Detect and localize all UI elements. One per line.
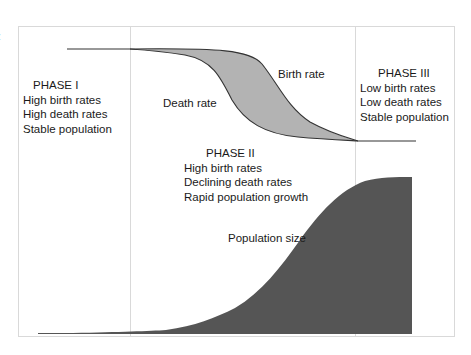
rate-gap-area — [130, 49, 358, 141]
phase-2-line-2: Declining death rates — [184, 175, 308, 190]
phase-2-line-1: High birth rates — [184, 161, 308, 176]
phase-2-title: PHASE II — [184, 146, 308, 161]
population-size-label: Population size — [228, 231, 306, 245]
phase-3-title: PHASE III — [360, 66, 449, 81]
phase-2-line-3: Rapid population growth — [184, 190, 308, 205]
phase-2-description: PHASE II High birth rates Declining deat… — [184, 146, 308, 204]
phase-1-line-2: High death rates — [23, 107, 112, 122]
death-rate-label: Death rate — [163, 96, 217, 110]
phase-1-description: PHASE I High birth rates High death rate… — [23, 78, 112, 136]
birth-rate-label: Birth rate — [278, 67, 325, 81]
phase-3-line-3: Stable population — [360, 110, 449, 125]
phase-3-line-2: Low death rates — [360, 95, 449, 110]
phase-1-line-1: High birth rates — [23, 93, 112, 108]
phase-3-line-1: Low birth rates — [360, 81, 449, 96]
phase-3-description: PHASE III Low birth rates Low death rate… — [360, 66, 449, 124]
phase-1-line-3: Stable population — [23, 122, 112, 137]
phase-1-title: PHASE I — [23, 78, 112, 93]
